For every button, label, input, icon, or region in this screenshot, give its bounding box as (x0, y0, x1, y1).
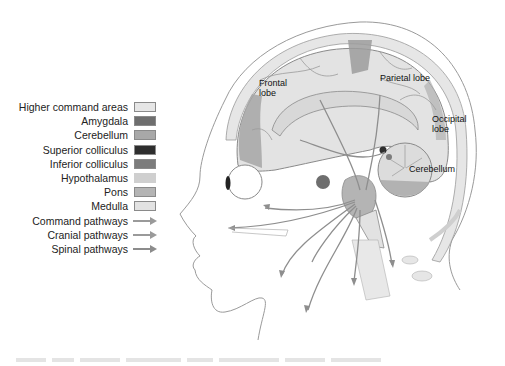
arrow-right-icon (133, 234, 157, 236)
inferior-colliculus (386, 154, 392, 160)
swatch-medulla (134, 201, 156, 211)
swatch-inferior-colliculus (134, 159, 156, 169)
figure-caption-illegible (16, 350, 387, 356)
legend-item-higher-command-areas: Higher command areas (0, 100, 160, 114)
legend-item-spinal-pathways: Spinal pathways (0, 242, 160, 256)
arrow-right-icon (133, 220, 157, 222)
swatch-pons (134, 187, 156, 197)
legend-item-command-pathways: Command pathways (0, 214, 160, 228)
label-cerebellum: Cerebellum (409, 164, 455, 174)
legend-item-medulla: Medulla (0, 199, 160, 213)
legend-item-inferior-colliculus: Inferior colliculus (0, 157, 160, 171)
legend-item-cranial-pathways: Cranial pathways (0, 228, 160, 242)
swatch-cerebellum (134, 130, 156, 140)
legend-item-superior-colliculus: Superior colliculus (0, 143, 160, 157)
label-occipital-lobe: Occipital lobe (432, 114, 467, 134)
label-frontal-lobe: Frontal lobe (259, 78, 287, 98)
swatch-superior-colliculus (134, 145, 156, 155)
label-parietal-lobe: Parietal lobe (380, 73, 430, 83)
legend-item-amygdala: Amygdala (0, 114, 160, 128)
swatch-higher-command-areas (134, 102, 156, 112)
arrow-right-icon (133, 248, 157, 250)
eye (228, 165, 262, 199)
pupil (226, 176, 231, 190)
legend-item-pons: Pons (0, 185, 160, 199)
swatch-hypothalamus (134, 173, 156, 183)
legend-item-cerebellum: Cerebellum (0, 128, 160, 142)
swatch-amygdala (134, 116, 156, 126)
legend-item-hypothalamus: Hypothalamus (0, 171, 160, 185)
amygdala (316, 175, 330, 189)
